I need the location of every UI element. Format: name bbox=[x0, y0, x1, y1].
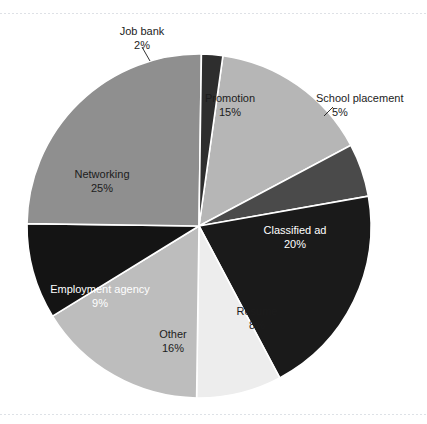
pie-chart-svg bbox=[0, 0, 427, 424]
pie-slice-group bbox=[27, 54, 371, 398]
pie-slice-networking[interactable] bbox=[27, 54, 201, 226]
pie-chart: Promotion 15% School placement 5% Classi… bbox=[0, 0, 427, 424]
figure-canvas: Promotion 15% School placement 5% Classi… bbox=[0, 0, 427, 424]
leader-line-job-bank bbox=[142, 47, 150, 61]
